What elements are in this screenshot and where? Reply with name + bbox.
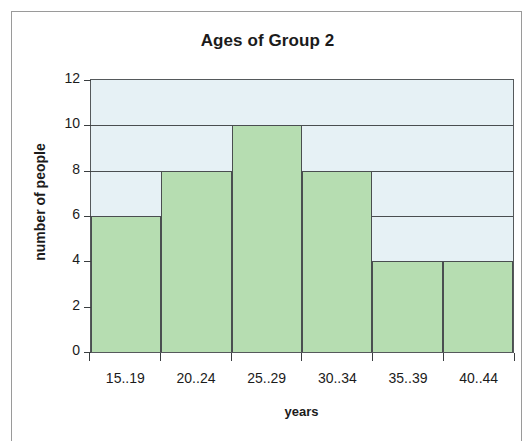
x-tick-label: 30..34 [302,370,373,386]
y-tick-label: 4 [72,251,80,267]
scanned-page-frame: Ages of Group 2 number of people 0246810… [11,11,522,441]
y-tick-label: 2 [72,297,80,313]
x-tick-label: 20..24 [161,370,232,386]
y-tick-mark [84,261,91,262]
y-tick-label: 12 [64,70,80,86]
x-tick-mark [372,353,373,361]
x-tick-mark [89,353,90,361]
y-tick-mark [84,125,91,126]
y-tick-label: 6 [72,206,80,222]
x-tick-mark [160,353,161,361]
x-axis-title: years [89,404,514,419]
y-tick-label: 10 [64,115,80,131]
y-tick-mark [84,216,91,217]
x-tick-mark [443,353,444,361]
x-tick-label: 15..19 [90,370,161,386]
y-axis-ticks: 024681012 [91,80,513,352]
x-tick-mark [301,353,302,361]
x-tick-label: 35..39 [373,370,444,386]
y-tick-mark [84,171,91,172]
plot-area: 024681012 [90,79,514,353]
x-tick-label: 25..29 [231,370,302,386]
y-tick-label: 0 [72,342,80,358]
x-tick-mark [231,353,232,361]
y-tick-mark [84,307,91,308]
x-tick-label: 40..44 [443,370,514,386]
chart-title: Ages of Group 2 [12,31,523,51]
y-tick-mark [84,80,91,81]
x-tick-mark [514,353,515,361]
y-tick-label: 8 [72,161,80,177]
y-axis-title: number of people [32,112,48,292]
